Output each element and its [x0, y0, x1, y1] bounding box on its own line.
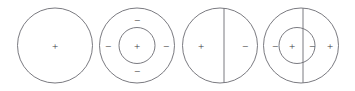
charge-diagrams-svg: + + − − − − + − − + − +: [0, 0, 355, 91]
panel-2-left-charge-minus: −: [105, 40, 111, 52]
panel-4-inner-left-charge-plus: +: [289, 40, 295, 52]
panel-2-center-charge-plus: +: [134, 40, 140, 52]
panel-3-split-sphere-positive-negative: + −: [183, 8, 258, 83]
panel-4-outer-left-charge-minus: −: [272, 40, 278, 52]
panel-4-split-core-alternating-charges: − + − +: [264, 8, 339, 83]
panel-3-left-charge-plus: +: [198, 40, 204, 52]
panel-2-right-charge-minus: −: [163, 40, 169, 52]
panel-4-outer-right-charge-plus: +: [327, 40, 333, 52]
panel-4-inner-right-charge-minus: −: [309, 40, 315, 52]
panel-2-top-charge-minus: −: [134, 14, 140, 26]
panel-2-bottom-charge-minus: −: [134, 65, 140, 77]
panel-3-right-charge-minus: −: [242, 40, 248, 52]
panel-1-center-charge-plus: +: [52, 40, 58, 52]
panel-1-uniform-positive-sphere: +: [18, 8, 93, 83]
figure-canvas: + + − − − − + − − + − +: [0, 0, 355, 91]
panel-2-positive-core-with-four-outer-negatives: + − − − −: [100, 8, 175, 83]
